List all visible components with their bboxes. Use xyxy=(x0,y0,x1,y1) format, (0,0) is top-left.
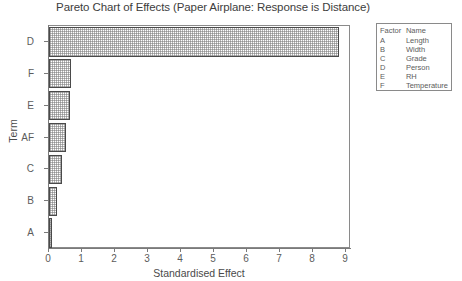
x-tick-mark xyxy=(279,248,280,252)
pareto-chart: Pareto Chart of Effects (Paper Airplane:… xyxy=(0,0,462,281)
bar-e xyxy=(49,91,70,120)
x-tick-label: 0 xyxy=(38,253,58,264)
chart-title: Pareto Chart of Effects (Paper Airplane:… xyxy=(48,1,378,13)
legend-table: Factor Name ALengthBWidthCGradeDPersonER… xyxy=(380,26,448,90)
x-axis-title: Standardised Effect xyxy=(48,267,350,279)
y-tick-label-c: C xyxy=(0,163,40,174)
x-tick-mark xyxy=(312,248,313,252)
legend-factor-name: Person xyxy=(406,63,448,72)
legend-header-row: Factor Name xyxy=(380,26,448,36)
y-tick-mark xyxy=(44,105,48,106)
y-tick-label-af: AF xyxy=(0,131,40,142)
y-tick-mark xyxy=(44,232,48,233)
bar-b xyxy=(49,187,57,216)
x-tick-mark xyxy=(48,248,49,252)
legend-factor-code: C xyxy=(380,54,406,63)
x-tick-label: 9 xyxy=(335,253,355,264)
bar-a xyxy=(49,218,52,247)
legend-factor-name: Length xyxy=(406,36,448,45)
legend-header-factor: Factor xyxy=(380,26,406,36)
y-tick-mark xyxy=(44,73,48,74)
legend-factor-code: B xyxy=(380,45,406,54)
y-tick-mark xyxy=(44,41,48,42)
legend-header-name: Name xyxy=(406,26,448,36)
y-tick-mark xyxy=(44,200,48,201)
legend-factor-name: RH xyxy=(406,72,448,81)
y-tick-label-a: A xyxy=(0,227,40,238)
legend-row: CGrade xyxy=(380,54,448,63)
x-tick-label: 2 xyxy=(104,253,124,264)
y-tick-label-d: D xyxy=(0,35,40,46)
legend-factor-name: Grade xyxy=(406,54,448,63)
legend-factor-code: D xyxy=(380,63,406,72)
x-tick-label: 5 xyxy=(203,253,223,264)
x-tick-label: 7 xyxy=(269,253,289,264)
legend-factor-name: Temperature xyxy=(406,81,448,90)
bar-f xyxy=(49,59,71,88)
factor-legend: Factor Name ALengthBWidthCGradeDPersonER… xyxy=(376,23,452,91)
y-tick-mark xyxy=(44,137,48,138)
y-tick-label-f: F xyxy=(0,67,40,78)
x-tick-label: 1 xyxy=(71,253,91,264)
x-tick-label: 6 xyxy=(236,253,256,264)
x-tick-label: 3 xyxy=(137,253,157,264)
x-tick-mark xyxy=(81,248,82,252)
x-tick-mark xyxy=(114,248,115,252)
bar-d xyxy=(49,27,339,56)
legend-row: DPerson xyxy=(380,63,448,72)
y-axis-line xyxy=(48,25,49,248)
y-tick-mark xyxy=(44,168,48,169)
bars-layer xyxy=(49,26,349,247)
plot-area xyxy=(48,25,350,248)
x-tick-mark xyxy=(213,248,214,252)
x-tick-mark xyxy=(147,248,148,252)
x-tick-label: 4 xyxy=(170,253,190,264)
x-tick-mark xyxy=(180,248,181,252)
legend-factor-code: F xyxy=(380,81,406,90)
legend-row: ALength xyxy=(380,36,448,45)
legend-row: BWidth xyxy=(380,45,448,54)
legend-factor-code: E xyxy=(380,72,406,81)
x-tick-mark xyxy=(345,248,346,252)
bar-af xyxy=(49,123,66,152)
bar-c xyxy=(49,155,62,184)
x-tick-label: 8 xyxy=(302,253,322,264)
y-axis-title: Term xyxy=(7,106,19,156)
y-tick-label-e: E xyxy=(0,99,40,110)
legend-factor-name: Width xyxy=(406,45,448,54)
x-axis-line xyxy=(48,248,351,249)
legend-factor-code: A xyxy=(380,36,406,45)
y-tick-label-b: B xyxy=(0,195,40,206)
legend-row: ERH xyxy=(380,72,448,81)
legend-row: FTemperature xyxy=(380,81,448,90)
x-tick-mark xyxy=(246,248,247,252)
